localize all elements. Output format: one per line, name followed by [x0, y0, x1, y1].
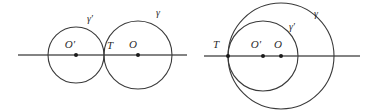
label-gamma-prime-right-panel: γ′ — [289, 21, 296, 32]
label-O-right-panel: O — [274, 38, 282, 50]
point-dot-O-left-panel — [136, 53, 140, 57]
panel-externally-tangent-circles: γ′ γ O′ T O — [18, 7, 187, 89]
label-O-prime-left-panel: O′ — [65, 38, 76, 50]
point-dot-O-prime-left-panel — [74, 53, 78, 57]
label-O-prime-right-panel: O′ — [251, 38, 262, 50]
label-gamma-left-panel: γ — [156, 7, 161, 18]
figure-container: γ′ γ O′ T O γ γ′ T O′ O — [0, 0, 374, 110]
panel-internally-tangent-circles: γ γ′ T O′ O — [204, 3, 360, 109]
label-T-left-panel: T — [107, 39, 114, 51]
point-dot-O-prime-right-panel — [261, 54, 265, 58]
label-T-right-panel: T — [213, 38, 220, 50]
label-gamma-prime-left-panel: γ′ — [87, 13, 94, 24]
tangent-circles-figure: γ′ γ O′ T O γ γ′ T O′ O — [0, 0, 374, 110]
point-dot-O-right-panel — [279, 54, 283, 58]
label-gamma-right-panel: γ — [314, 8, 319, 19]
label-O-left-panel: O — [129, 38, 137, 50]
point-dot-T-right-panel — [226, 54, 230, 58]
